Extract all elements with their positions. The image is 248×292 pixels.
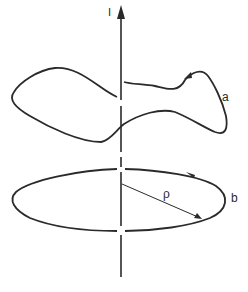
loop-b-front: [125, 169, 225, 231]
current-label: I: [108, 6, 111, 18]
ampere-law-diagram: I a b ρ: [0, 0, 248, 292]
loop-b-label: b: [231, 192, 238, 204]
current-arrow-icon: [117, 5, 125, 19]
radius-label: ρ: [163, 188, 170, 200]
loop-a: [12, 68, 227, 142]
loop-a-label: a: [222, 91, 229, 103]
loop-b-back: [12, 169, 117, 231]
radius-line: [122, 184, 198, 217]
loop-a-direction-icon: [184, 72, 192, 79]
